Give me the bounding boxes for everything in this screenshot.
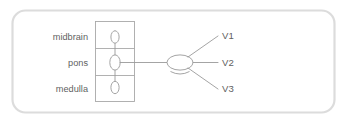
branch-label-v2: V2 [222, 57, 234, 68]
main-sensory-nucleus-icon [110, 55, 120, 70]
trigeminal-ganglion-icon [167, 55, 193, 70]
spinal-nucleus-icon [111, 81, 119, 93]
mesencephalic-nucleus-icon [111, 31, 119, 43]
branch-label-v3: V3 [222, 83, 234, 94]
region-label-pons: pons [68, 58, 88, 68]
trigeminal-diagram: midbrain pons medulla V1 V2 V3 [0, 0, 347, 123]
branch-label-v1: V1 [222, 30, 234, 41]
figure-container: midbrain pons medulla V1 V2 V3 [0, 0, 347, 123]
region-label-midbrain: midbrain [53, 32, 88, 42]
region-label-medulla: medulla [56, 84, 89, 94]
